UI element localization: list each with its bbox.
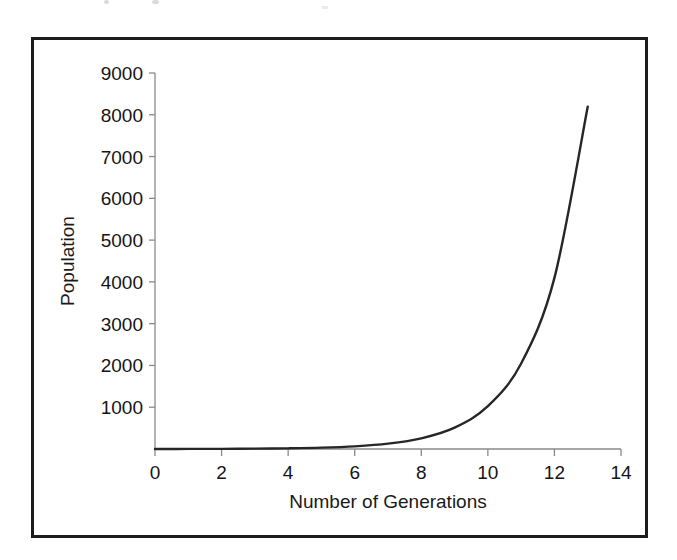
y-tick-label: 4000 (101, 272, 143, 293)
x-tick-label: 12 (544, 462, 565, 483)
scan-artifact-top-right (322, 6, 328, 9)
y-tick-label: 2000 (101, 355, 143, 376)
plot-area: 100020003000400050006000700080009000 024… (34, 40, 651, 541)
y-axis-title: Population (57, 216, 78, 306)
x-tick-label: 10 (477, 462, 498, 483)
x-axis-ticks (155, 449, 621, 456)
y-tick-label: 9000 (101, 63, 143, 84)
population-growth-chart: 100020003000400050006000700080009000 024… (34, 40, 651, 541)
population-curve (155, 107, 588, 449)
x-tick-label: 0 (150, 462, 161, 483)
y-tick-label: 8000 (101, 105, 143, 126)
y-tick-label: 3000 (101, 314, 143, 335)
x-axis-title: Number of Generations (289, 491, 487, 512)
y-axis-ticks (149, 73, 155, 407)
x-tick-label: 2 (216, 462, 227, 483)
y-tick-label: 1000 (101, 397, 143, 418)
x-tick-label: 6 (349, 462, 360, 483)
figure-frame: 100020003000400050006000700080009000 024… (31, 37, 648, 538)
x-tick-label: 4 (283, 462, 294, 483)
x-tick-label: 14 (610, 462, 632, 483)
x-tick-label: 8 (416, 462, 427, 483)
y-axis-tick-labels: 100020003000400050006000700080009000 (101, 63, 143, 418)
x-axis-tick-labels: 02468101214 (150, 462, 632, 483)
scan-artifact-top-mid (152, 0, 159, 4)
y-tick-label: 5000 (101, 230, 143, 251)
y-tick-label: 6000 (101, 188, 143, 209)
y-tick-label: 7000 (101, 147, 143, 168)
scan-artifact-top-left (104, 0, 109, 4)
